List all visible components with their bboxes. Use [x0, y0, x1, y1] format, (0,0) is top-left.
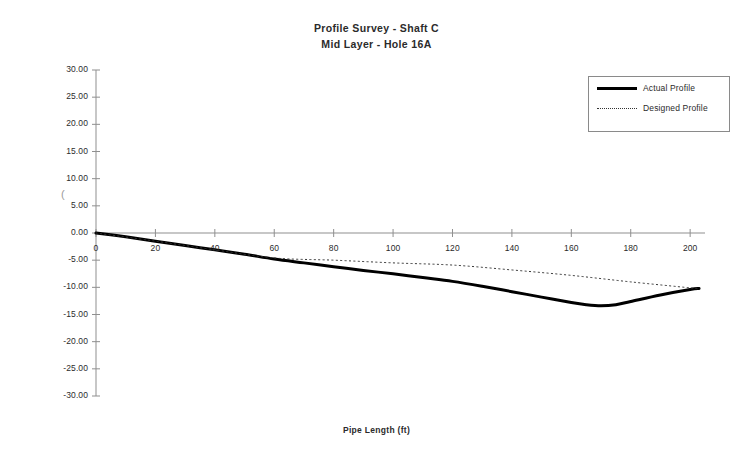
x-tick-label: 80	[314, 243, 354, 253]
y-tick-label: -20.00	[26, 336, 88, 346]
chart-canvas: Profile Survey - Shaft C Mid Layer - Hol…	[0, 0, 753, 472]
x-tick-label: 160	[551, 243, 591, 253]
x-tick-label: 140	[492, 243, 532, 253]
y-tick-label: -10.00	[26, 281, 88, 291]
y-tick-label: 10.00	[26, 173, 88, 183]
x-axis-title: Pipe Length (ft)	[0, 425, 753, 435]
y-tick-label: 25.00	[26, 91, 88, 101]
y-tick-label: -5.00	[26, 254, 88, 264]
x-tick-label: 40	[195, 243, 235, 253]
series-line	[96, 233, 699, 289]
y-tick-label: 20.00	[26, 118, 88, 128]
chart-legend: Actual Profile Designed Profile	[588, 76, 730, 132]
scan-artifact: (	[61, 188, 65, 200]
x-tick-label: 200	[670, 243, 710, 253]
y-tick-label: 5.00	[26, 200, 88, 210]
legend-swatch-solid-icon	[595, 83, 639, 95]
legend-label-actual-profile: Actual Profile	[643, 83, 695, 94]
legend-item-designed-profile: Designed Profile	[595, 103, 709, 115]
legend-swatch-dotted-icon	[595, 103, 639, 115]
x-tick-label: 120	[432, 243, 472, 253]
y-tick-label: -15.00	[26, 309, 88, 319]
legend-label-designed-profile: Designed Profile	[643, 103, 709, 114]
x-tick-label: 180	[611, 243, 651, 253]
y-tick-label: -25.00	[26, 363, 88, 373]
x-tick-label: 20	[135, 243, 175, 253]
legend-item-actual-profile: Actual Profile	[595, 83, 695, 95]
x-tick-label: 100	[373, 243, 413, 253]
y-tick-label: -30.00	[26, 390, 88, 400]
x-tick-label: 0	[76, 243, 116, 253]
x-tick-label: 60	[254, 243, 294, 253]
y-tick-label: 0.00	[26, 227, 88, 237]
plot-area	[0, 0, 753, 472]
y-tick-label: 30.00	[26, 64, 88, 74]
y-tick-label: 15.00	[26, 146, 88, 156]
